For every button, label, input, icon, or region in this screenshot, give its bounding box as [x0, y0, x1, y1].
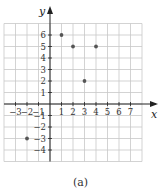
y-tick-label: −2	[33, 122, 46, 132]
y-tick-label: −4	[33, 145, 46, 155]
y-axis-label: y	[38, 5, 46, 18]
y-tick-label: −1	[33, 111, 46, 121]
x-tick-label: 7	[128, 107, 133, 117]
y-tick-label: 3	[41, 65, 46, 75]
y-tick-label: 1	[41, 88, 46, 98]
y-tick-label: 2	[41, 76, 46, 86]
figure-caption: (a)	[73, 176, 88, 189]
y-tick-label: 4	[41, 53, 46, 63]
data-point	[60, 33, 64, 37]
x-tick-label: 3	[82, 107, 87, 117]
data-point	[25, 137, 29, 141]
y-tick-label: 5	[41, 42, 46, 52]
y-tick-label: 6	[41, 30, 46, 40]
x-tick-label: 1	[59, 107, 64, 117]
x-tick-label: 6	[116, 107, 121, 117]
data-point	[83, 79, 87, 83]
grid	[4, 24, 142, 162]
x-tick-label: 5	[105, 107, 110, 117]
x-tick-label: 2	[70, 107, 75, 117]
data-point	[94, 45, 98, 49]
x-axis-label: x	[151, 108, 158, 121]
scatter-plot: −3−2−11234567654321−1−2−3−4 x y (a)	[0, 0, 162, 190]
x-tick-label: 4	[93, 107, 98, 117]
data-point	[71, 45, 75, 49]
y-tick-label: −3	[33, 134, 46, 144]
